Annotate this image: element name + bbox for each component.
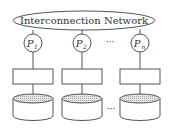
processor-ellipsis: ···	[106, 37, 115, 47]
svg-text:P: P	[26, 38, 34, 49]
disk-2	[62, 94, 102, 120]
node-2: P 2	[62, 30, 102, 120]
disk-1	[13, 94, 53, 121]
memory-1	[13, 69, 53, 84]
memory-2	[62, 69, 102, 84]
node-1: P 1	[13, 30, 53, 121]
memory-n	[120, 69, 160, 84]
svg-text:2: 2	[82, 43, 87, 50]
svg-text:P: P	[133, 38, 141, 49]
svg-text:1: 1	[34, 43, 38, 50]
disk-n	[120, 94, 160, 121]
node-n: P n	[120, 29, 160, 121]
disk-ellipsis: ···	[107, 104, 116, 114]
network-label: Interconnection Network	[20, 15, 149, 26]
svg-text:n: n	[142, 43, 146, 50]
interconnection-network: Interconnection Network	[13, 11, 155, 30]
shared-disk-architecture-diagram: Interconnection Network P 1 P 2 P n	[0, 0, 169, 130]
svg-text:P: P	[75, 38, 83, 49]
